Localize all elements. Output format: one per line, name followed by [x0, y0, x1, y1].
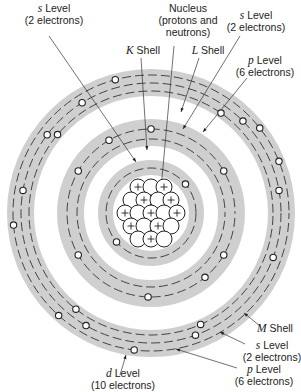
arrowhead-icon	[181, 108, 184, 112]
electron-icon	[83, 322, 89, 328]
electron-count: (2 electrons)	[25, 14, 83, 26]
electron-icon	[270, 254, 276, 260]
electron-count: (6 electrons)	[236, 66, 294, 78]
electron-icon	[113, 239, 119, 245]
l-p-level-label: p Level (6 electrons)	[228, 54, 301, 78]
electron-count: (2 electrons)	[243, 351, 301, 363]
nucleus-label-line3: neutrons)	[166, 26, 210, 38]
electron-icon	[218, 110, 224, 116]
electron-icon	[240, 118, 246, 124]
level-text: Level	[112, 367, 140, 379]
arrowhead-icon	[145, 146, 148, 150]
shell-text: Shell	[198, 44, 224, 56]
m-s-level-label: s Level (2 electrons)	[236, 339, 301, 363]
electron-icon	[73, 306, 79, 312]
nucleus	[117, 179, 185, 247]
electron-icon	[182, 181, 188, 187]
electron-icon	[75, 168, 81, 174]
electron-icon	[112, 77, 118, 83]
electron-icon	[55, 312, 61, 318]
electron-icon	[202, 274, 208, 280]
k-s-level-label: s Level (2 electrons)	[12, 2, 96, 26]
electron-icon	[276, 187, 282, 193]
electron-icon	[54, 131, 60, 137]
nucleus-label-line2: (protons and	[159, 14, 218, 26]
level-text: Level	[253, 363, 281, 375]
electron-count: (2 electrons)	[227, 21, 285, 33]
electron-icon	[145, 294, 151, 300]
nucleus-label-line1: Nucleus	[169, 2, 207, 14]
neutron-icon	[156, 231, 172, 247]
arrowhead-icon	[132, 158, 136, 162]
electron-icon	[79, 100, 85, 106]
shell-letter: M	[257, 322, 267, 334]
arrowhead-icon	[123, 355, 126, 359]
electron-icon	[276, 158, 282, 164]
electron-icon	[75, 252, 81, 258]
m-shell-label: M Shell	[250, 322, 300, 334]
level-text: Level	[254, 54, 282, 66]
electron-icon	[10, 222, 16, 228]
electron-count: (6 electrons)	[235, 375, 293, 387]
shell-letter: K	[126, 44, 134, 56]
electron-icon	[221, 252, 227, 258]
k-shell-label: K Shell	[118, 44, 168, 56]
m-d-level-label: d Level (10 electrons)	[84, 367, 162, 391]
shell-text: Shell	[134, 44, 160, 56]
electron-icon	[257, 125, 263, 131]
electron-icon	[44, 132, 50, 138]
m-p-level-label: p Level (6 electrons)	[228, 363, 300, 387]
electron-icon	[20, 187, 26, 193]
electron-icon	[131, 347, 137, 353]
level-text: Level	[244, 9, 272, 21]
electron-icon	[197, 321, 203, 327]
electron-icon	[192, 332, 198, 338]
l-s-level-label: s Level (2 electrons)	[214, 9, 298, 33]
electron-icon	[148, 126, 154, 132]
electron-icon	[221, 168, 227, 174]
electron-icon	[106, 137, 112, 143]
electron-count: (10 electrons)	[91, 379, 155, 391]
level-text: Level	[42, 2, 70, 14]
l-shell-label: L Shell	[183, 44, 233, 56]
level-text: Level	[260, 339, 288, 351]
shell-text: Shell	[267, 322, 293, 334]
